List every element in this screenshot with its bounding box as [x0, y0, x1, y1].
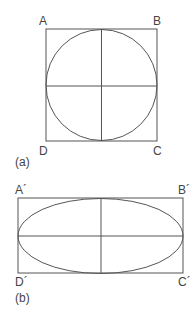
figure-a — [46, 29, 157, 141]
figure-b-labels: A´ B´ D´ C´ (b) — [15, 183, 191, 305]
label-b: B — [153, 14, 161, 28]
caption-b: (b) — [15, 291, 30, 305]
label-a-prime: A´ — [15, 183, 27, 197]
label-a: A — [39, 14, 47, 28]
label-d-prime: D´ — [15, 275, 28, 289]
figure-b — [18, 198, 183, 274]
diagram-canvas: A B D C (a) A´ B´ D´ C´ (b) — [0, 0, 193, 314]
figure-a-labels: A B D C (a) — [15, 14, 162, 169]
caption-a: (a) — [15, 155, 30, 169]
label-d: D — [39, 144, 48, 158]
label-b-prime: B´ — [178, 183, 190, 197]
label-c-prime: C´ — [178, 275, 191, 289]
label-c: C — [153, 144, 162, 158]
